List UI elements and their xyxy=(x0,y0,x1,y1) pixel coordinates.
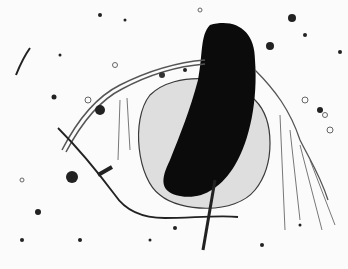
debris-fiber-topleft xyxy=(16,48,30,75)
zooplankton-illustration xyxy=(0,0,348,269)
micrograph-image xyxy=(0,0,348,269)
